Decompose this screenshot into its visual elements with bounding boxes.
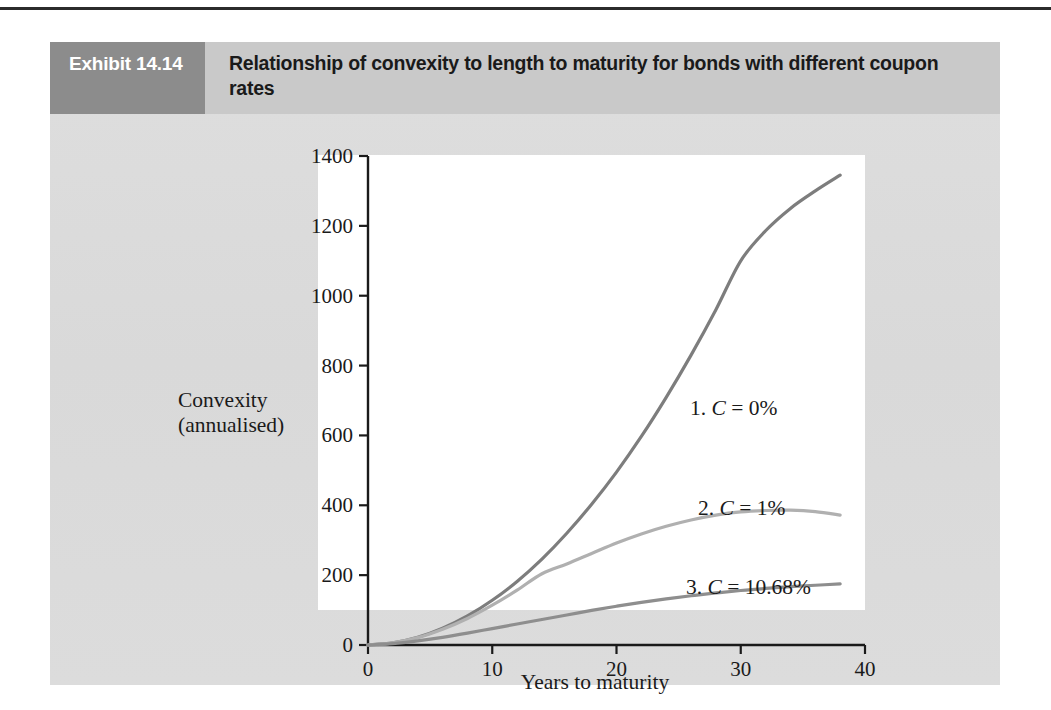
series-1-coupon: 0% — [749, 396, 778, 420]
exhibit-header: Exhibit 14.14 Relationship of convexity … — [50, 42, 1000, 114]
series-1-equals: = — [731, 396, 743, 420]
y-axis-label: Convexity (annualised) — [178, 388, 328, 438]
y-axis-label-line-1: Convexity — [178, 388, 328, 413]
y-axis-tick-label: 0 — [281, 635, 353, 656]
x-axis-label: Years to maturity — [450, 670, 740, 695]
x-axis-tick-label: 40 — [843, 659, 887, 680]
series-annotation-3: 3. C = 10.68% — [686, 575, 811, 600]
series-2-coupon: 1% — [757, 496, 786, 520]
series-1-prefix: 1. — [690, 396, 706, 420]
page-top-rule — [0, 7, 1051, 10]
series-annotation-2: 2. C = 1% — [698, 496, 785, 521]
y-axis-tick-label: 1000 — [281, 286, 353, 307]
y-axis-label-line-2: (annualised) — [178, 413, 328, 438]
series-3-symbol: C — [708, 575, 722, 599]
series-1-symbol: C — [712, 396, 726, 420]
series-3-equals: = — [727, 575, 739, 599]
y-axis-tick-label: 1400 — [281, 146, 353, 167]
exhibit-title: Relationship of convexity to length to m… — [205, 42, 1000, 114]
y-axis-tick-label: 200 — [281, 565, 353, 586]
series-2-equals: = — [739, 496, 751, 520]
x-axis-tick-label: 0 — [346, 659, 390, 680]
chart-region: 0200400600800100012001400 010203040 Conv… — [50, 114, 1000, 685]
series-2-prefix: 2. — [698, 496, 714, 520]
series-2-symbol: C — [720, 496, 734, 520]
y-axis-tick-label: 800 — [281, 356, 353, 377]
series-annotation-1: 1. C = 0% — [690, 396, 777, 421]
exhibit-number-tag: Exhibit 14.14 — [50, 42, 205, 114]
series-3-prefix: 3. — [686, 575, 702, 599]
y-axis-tick-label: 1200 — [281, 216, 353, 237]
exhibit-panel: Exhibit 14.14 Relationship of convexity … — [50, 42, 1000, 685]
y-axis-tick-label: 400 — [281, 495, 353, 516]
series-3-coupon: 10.68% — [745, 575, 811, 599]
